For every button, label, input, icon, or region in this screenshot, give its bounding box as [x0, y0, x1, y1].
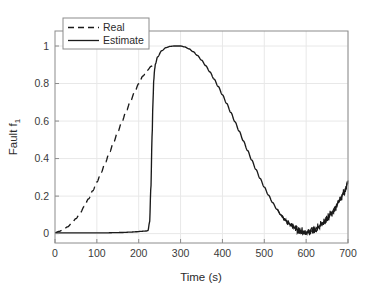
svg-text:500: 500 [256, 247, 274, 259]
svg-text:200: 200 [130, 247, 148, 259]
legend-label-estimate: Estimate [103, 34, 144, 46]
svg-text:0.2: 0.2 [34, 190, 49, 202]
svg-text:1: 1 [43, 40, 49, 52]
svg-text:0: 0 [52, 247, 58, 259]
legend-label-real: Real [103, 21, 125, 33]
chart-figure: 0100200300400500600700 00.20.40.60.81 Ti… [0, 0, 372, 292]
svg-text:0.8: 0.8 [34, 77, 49, 89]
svg-text:0.6: 0.6 [34, 115, 49, 127]
svg-text:0: 0 [43, 227, 49, 239]
fault-estimation-line-chart: 0100200300400500600700 00.20.40.60.81 Ti… [0, 0, 372, 292]
svg-text:100: 100 [88, 247, 106, 259]
svg-text:700: 700 [339, 247, 357, 259]
svg-text:600: 600 [297, 247, 315, 259]
svg-text:0.4: 0.4 [34, 152, 49, 164]
legend: Real Estimate [63, 18, 149, 49]
x-axis-title: Time (s) [180, 271, 222, 283]
svg-text:300: 300 [172, 247, 190, 259]
y-axis-title-subscript: 1 [13, 118, 22, 123]
svg-text:400: 400 [214, 247, 232, 259]
